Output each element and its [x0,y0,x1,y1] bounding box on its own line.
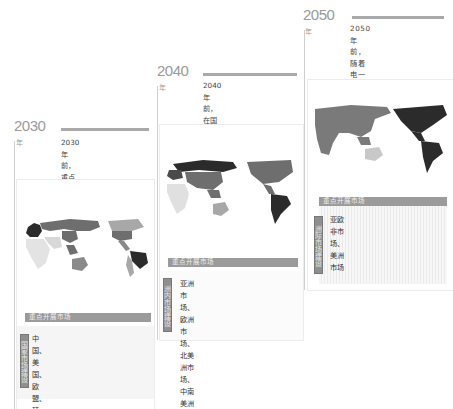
focus-markets-bar: 重点开展市场 [319,197,447,206]
timeline-line [157,86,158,340]
vertical-category-label: 洲际市场建设 [314,216,323,274]
world-map-2040 [163,158,301,228]
focus-markets-bar: 重点开展市场 [25,313,151,322]
year-rule [61,128,149,131]
timeline-line [304,30,305,290]
year-rule [203,73,297,76]
year-label-2050: 2050年 [303,6,334,40]
world-map-2030 [20,215,150,280]
market-list: 亚欧非市场、 美洲市场 [330,214,344,274]
year-label-2030: 2030年 [14,117,45,151]
market-list: 中国、美国、欧盟、韩国、日本、 澳大利亚、俄罗斯、加拿大、巴西、 土耳其、马来西… [32,333,46,409]
year-rule [352,16,444,19]
focus-markets-bar: 重点开展市场 [168,258,298,267]
year-label-2040: 2040年 [157,62,188,96]
market-list: 亚洲市场、欧洲市场、 北美洲市场、中南美洲市场、 非洲市场、大洋洲市场 [180,278,194,409]
vertical-category-label: 洲内市场建设 [163,278,172,332]
vertical-category-label: 国家市场建设 [20,334,29,388]
timeline-line [14,141,15,409]
world-map-2050 [311,103,453,175]
